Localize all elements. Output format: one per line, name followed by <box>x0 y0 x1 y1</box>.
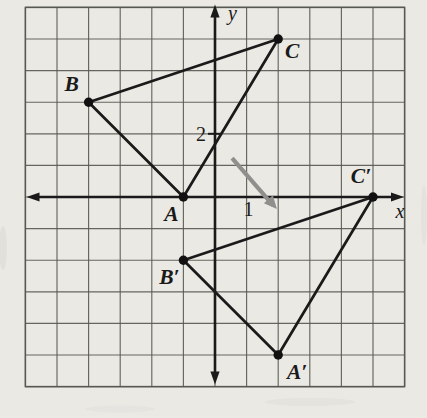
y-axis-label: y <box>226 2 237 25</box>
y-tick-label: 2 <box>196 123 206 145</box>
coordinate-plane-figure: yx21ABCA′B′C′ <box>0 0 427 418</box>
point-label-A-prime: A′ <box>285 360 307 384</box>
x-tick-label: 1 <box>244 198 254 220</box>
point-dot-A <box>179 192 188 201</box>
point-dot-C <box>274 34 283 43</box>
scan-smudge <box>85 406 155 413</box>
scan-smudge <box>265 398 355 406</box>
point-dot-B <box>84 98 93 107</box>
point-dot-A-prime <box>274 350 283 359</box>
point-label-C-prime: C′ <box>351 164 371 188</box>
point-dot-C-prime <box>368 192 377 201</box>
point-label-B: B <box>63 72 78 96</box>
point-dot-B-prime <box>179 256 188 265</box>
point-label-A: A <box>162 202 178 226</box>
scan-smudge <box>421 185 427 245</box>
point-label-C: C <box>285 39 300 63</box>
textbook-figure-page: yx21ABCA′B′C′ <box>0 0 427 418</box>
point-label-B-prime: B′ <box>158 265 179 289</box>
x-axis-label: x <box>395 200 405 222</box>
